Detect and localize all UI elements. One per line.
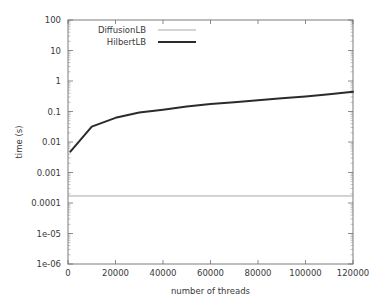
x-axis-ticks: 020000400006000080000100000120000	[65, 20, 369, 278]
chart-legend: DiffusionLBHilbertLB	[98, 25, 196, 47]
x-tick-label: 60000	[197, 268, 224, 278]
y-axis-title: time (s)	[14, 126, 24, 159]
series-line-hilbertlb	[70, 92, 353, 152]
y-tick-label: 0.001	[37, 168, 61, 178]
data-series-group	[68, 92, 353, 196]
y-tick-label: 100	[45, 15, 61, 25]
chart-figure: 1e-061e-050.00010.0010.010.1110100 02000…	[0, 0, 388, 302]
x-axis-title: number of threads	[171, 286, 251, 296]
x-tick-label: 40000	[149, 268, 176, 278]
y-tick-label: 0.1	[47, 107, 61, 117]
x-tick-label: 120000	[337, 268, 369, 278]
plot-frame	[68, 20, 353, 264]
x-tick-label: 100000	[289, 268, 321, 278]
x-tick-label: 20000	[102, 268, 129, 278]
line-chart-canvas: 1e-061e-050.00010.0010.010.1110100 02000…	[0, 0, 388, 302]
y-tick-label: 1	[56, 76, 61, 86]
y-tick-label: 10	[50, 46, 61, 56]
legend-label-diffusionlb: DiffusionLB	[98, 25, 146, 35]
x-tick-label: 80000	[244, 268, 271, 278]
legend-label-hilbertlb: HilbertLB	[107, 37, 146, 47]
x-tick-label: 0	[65, 268, 70, 278]
y-tick-label: 0.0001	[31, 198, 61, 208]
y-tick-label: 0.01	[42, 137, 61, 147]
y-tick-label: 1e-05	[36, 229, 61, 239]
y-tick-label: 1e-06	[36, 259, 61, 269]
